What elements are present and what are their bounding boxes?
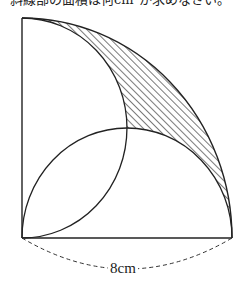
- geometry-figure: [0, 0, 251, 296]
- shaded-lens-region: [22, 128, 127, 238]
- dimension-label: 8cm: [108, 260, 138, 277]
